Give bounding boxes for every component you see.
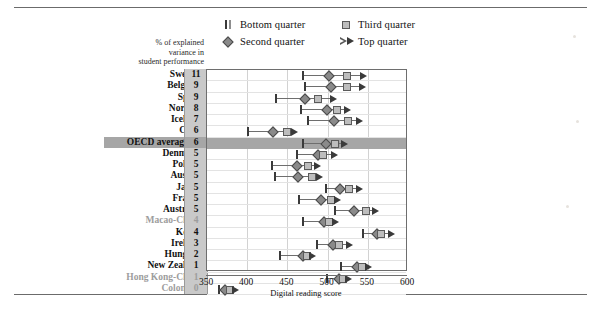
- x-tick-label-600: 600: [400, 277, 414, 287]
- marker-second-quarter: [315, 194, 326, 205]
- marker-third-quarter: [314, 95, 322, 103]
- marker-top-quarter: [344, 106, 351, 114]
- plot-row-oecd-average-16: [207, 138, 406, 149]
- x-tick-label-350: 350: [199, 277, 213, 287]
- plot-row-ireland: [207, 239, 406, 250]
- variance-value: 4: [185, 227, 207, 238]
- marker-top-quarter: [331, 151, 338, 159]
- plot-row-belgium: [207, 81, 406, 92]
- plot-row-sweden: [207, 70, 406, 81]
- marker-third-quarter: [343, 83, 351, 91]
- marker-bottom-quarter: [298, 195, 300, 204]
- page-speck: [576, 120, 579, 123]
- marker-third-quarter: [345, 185, 353, 193]
- diamond-icon: [222, 35, 235, 48]
- marker-bottom-quarter: [325, 184, 327, 193]
- marker-bottom-quarter: [302, 217, 304, 226]
- marker-bottom-quarter: [274, 172, 276, 181]
- marker-bottom-quarter: [300, 105, 302, 114]
- legend-item-top-quarter: Top quarter: [340, 35, 460, 48]
- marker-top-quarter: [314, 162, 321, 170]
- figure-top-rule: [14, 7, 587, 8]
- variance-value: 1: [185, 260, 207, 271]
- marker-second-quarter: [321, 104, 332, 115]
- marker-top-quarter: [316, 173, 323, 181]
- marker-bottom-quarter: [275, 94, 277, 103]
- bar-pair-icon: [222, 18, 235, 31]
- plot-row-macao-china: [207, 216, 406, 227]
- caption-line-2: variance in: [108, 48, 204, 58]
- marker-third-quarter: [319, 151, 327, 159]
- marker-top-quarter: [309, 252, 316, 260]
- marker-bottom-quarter: [302, 71, 304, 80]
- triangle-pair-icon: [340, 35, 353, 48]
- legend-label-second-quarter: Second quarter: [240, 36, 305, 47]
- variance-value: 5: [185, 170, 207, 181]
- marker-third-quarter: [343, 72, 351, 80]
- legend-item-second-quarter: Second quarter: [222, 35, 340, 48]
- marker-top-quarter: [388, 230, 395, 238]
- marker-third-quarter: [344, 117, 352, 125]
- marker-top-quarter: [330, 95, 337, 103]
- marker-third-quarter: [283, 128, 291, 136]
- plot-row-austria: [207, 171, 406, 182]
- marker-top-quarter: [359, 83, 366, 91]
- marker-top-quarter: [360, 72, 367, 80]
- legend-item-bottom-quarter: Bottom quarter: [222, 18, 340, 31]
- plot-row-chile: [207, 126, 406, 137]
- legend-row-2: Second quarter Top quarter: [222, 33, 472, 50]
- plot-row-france: [207, 194, 406, 205]
- marker-second-quarter: [267, 127, 278, 138]
- variance-value: 6: [185, 125, 207, 136]
- marker-bottom-quarter: [362, 229, 364, 238]
- chart-legend: Bottom quarter Third quarter Second quar…: [222, 16, 472, 50]
- variance-value: 5: [185, 193, 207, 204]
- variance-value: 9: [185, 80, 207, 91]
- marker-bottom-quarter: [340, 262, 342, 271]
- marker-third-quarter: [333, 106, 341, 114]
- variance-value: 5: [185, 182, 207, 193]
- marker-second-quarter: [328, 115, 339, 126]
- variance-value: 5: [185, 159, 207, 170]
- variance-value: 4: [185, 215, 207, 226]
- plot-row-japan: [207, 183, 406, 194]
- variance-value: 5: [185, 148, 207, 159]
- plot-row-iceland: [207, 115, 406, 126]
- marker-bottom-quarter: [247, 127, 249, 136]
- variance-value: 3: [185, 238, 207, 249]
- x-axis-title: Digital reading score: [270, 288, 341, 298]
- marker-bottom-quarter: [316, 240, 318, 249]
- marker-third-quarter: [377, 230, 385, 238]
- marker-second-quarter: [325, 82, 336, 93]
- x-tick-label-400: 400: [239, 277, 253, 287]
- plot-area: [206, 69, 407, 271]
- marker-second-quarter: [348, 205, 359, 216]
- plot-row-australia: [207, 205, 406, 216]
- caption-line-3: student performance: [108, 57, 204, 67]
- marker-bottom-quarter: [304, 82, 306, 91]
- marker-top-quarter: [332, 218, 339, 226]
- caption-line-1: % of explained: [108, 38, 204, 48]
- legend-row-1: Bottom quarter Third quarter: [222, 16, 472, 33]
- marker-top-quarter: [365, 263, 372, 271]
- square-icon: [340, 18, 353, 31]
- variance-value: 11: [185, 69, 207, 80]
- plot-row-new-zealand: [207, 261, 406, 272]
- marker-second-quarter: [292, 172, 303, 183]
- marker-third-quarter: [362, 207, 370, 215]
- variance-value-column: 119987665555554432110: [184, 69, 208, 294]
- marker-top-quarter: [346, 241, 353, 249]
- plot-row-korea: [207, 228, 406, 239]
- plot-row-hungary: [207, 250, 406, 261]
- marker-top-quarter: [356, 117, 363, 125]
- x-tick-label-550: 550: [360, 277, 374, 287]
- x-axis-line: [206, 275, 407, 276]
- marker-top-quarter: [341, 140, 348, 148]
- marker-bottom-quarter: [302, 139, 304, 148]
- legend-label-bottom-quarter: Bottom quarter: [240, 19, 305, 30]
- marker-second-quarter: [334, 183, 345, 194]
- marker-bottom-quarter: [271, 161, 273, 170]
- marker-bottom-quarter: [279, 251, 281, 260]
- legend-item-third-quarter: Third quarter: [340, 18, 460, 31]
- figure-page: Bottom quarter Third quarter Second quar…: [0, 0, 601, 319]
